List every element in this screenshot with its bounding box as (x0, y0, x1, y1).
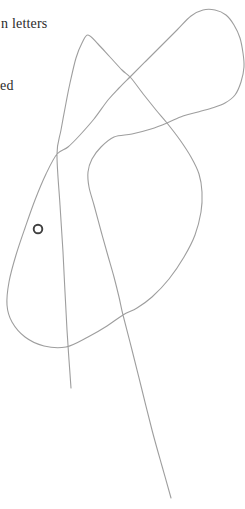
text-fragment-line2: ed (0, 79, 14, 93)
page-fragment: n letters ed (0, 0, 245, 509)
text-fragment-line1: n letters (1, 17, 48, 31)
squiggle-curve (7, 9, 244, 498)
squiggle-figure (0, 0, 245, 509)
circle-marker (34, 225, 43, 234)
